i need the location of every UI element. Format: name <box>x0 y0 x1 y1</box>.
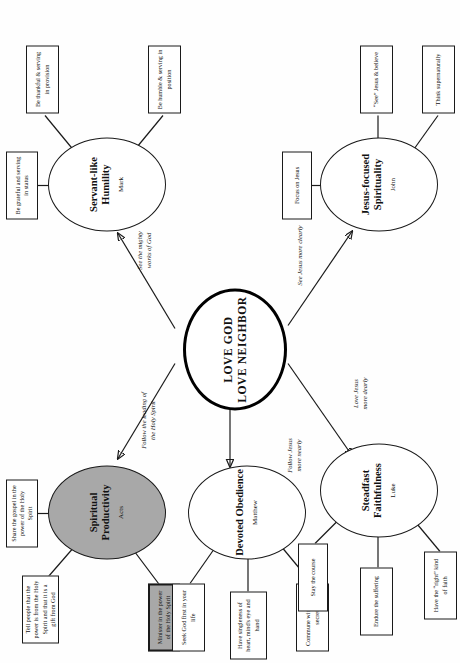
edge-label-mighty-works: See the mighty works of God <box>136 207 153 293</box>
branch-book: Mark <box>118 176 126 191</box>
branch-book: John <box>390 177 398 190</box>
leaf-box[interactable]: Endure the suffering <box>360 567 393 635</box>
branch-book: Matthew <box>252 500 260 525</box>
diagram-page: LOVE GOD LOVE NEIGHBOR Spiritual Product… <box>0 0 460 663</box>
branch-node-jesus-focused-spirituality[interactable]: Jesus-focused Spirituality John <box>320 137 438 231</box>
branch-title: Steadfast Faithfulness <box>360 444 384 536</box>
leaf-box[interactable]: “See” Jesus & believe <box>360 45 393 113</box>
edge-label-see-jesus: See Jesus more clearly <box>296 199 305 311</box>
branch-node-spiritual-productivity[interactable]: Spiritual Productivity Acts <box>48 465 166 559</box>
hub-line-1: LOVE GOD <box>222 316 235 382</box>
branch-title: Jesus-focused Spirituality <box>360 138 384 230</box>
branch-book: Luke <box>390 483 398 497</box>
branch-node-steadfast-faithfulness[interactable]: Steadfast Faithfulness Luke <box>320 443 438 537</box>
branch-title: Servant-like Humility <box>88 138 112 230</box>
leaf-box[interactable]: Share the gospel in the power of the Hol… <box>6 479 38 547</box>
hub-line-2: LOVE NEIGHBOR <box>236 296 249 403</box>
edge-label-love-jesus: Love Jesus more dearly <box>352 351 369 435</box>
leaf-box[interactable]: Be grateful and serving in status <box>6 151 38 219</box>
edge-label-holy-spirit: Follow the leading of the Holy Spirit <box>140 375 157 465</box>
leaf-box[interactable]: Have the “right” kind of faith <box>424 551 457 619</box>
diagram-canvas: LOVE GOD LOVE NEIGHBOR Spiritual Product… <box>0 0 460 663</box>
leaf-box[interactable]: Be thankful & serving in provision <box>26 45 59 113</box>
leaf-box[interactable]: Tell people that the power is from the H… <box>22 575 59 643</box>
edge-label-follow-jesus: Follow Jesus more nearly <box>286 413 303 497</box>
hub-node: LOVE GOD LOVE NEIGHBOR <box>183 288 287 410</box>
branch-title: Spiritual Productivity <box>88 466 112 558</box>
leaf-box[interactable]: Seek God first in your life <box>172 583 205 651</box>
leaf-box[interactable]: Be humble & serving in position <box>148 45 181 113</box>
branch-title: Devoted Obedience <box>234 469 246 556</box>
leaf-box[interactable]: Have singleness of heart, mind's eye and… <box>230 591 267 659</box>
leaf-box[interactable]: Think supernaturally <box>422 45 455 113</box>
branch-book: Acts <box>118 506 126 519</box>
leaf-box[interactable]: Stay the course <box>298 543 328 611</box>
